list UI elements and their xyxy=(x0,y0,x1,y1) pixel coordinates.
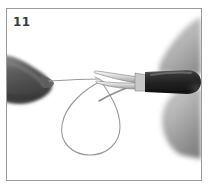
figure-frame: 11 xyxy=(6,8,202,181)
instructional-photo xyxy=(7,9,201,180)
step-number: 11 xyxy=(13,16,31,28)
figure-root: 11 xyxy=(0,0,210,192)
photo-canvas xyxy=(7,9,201,180)
